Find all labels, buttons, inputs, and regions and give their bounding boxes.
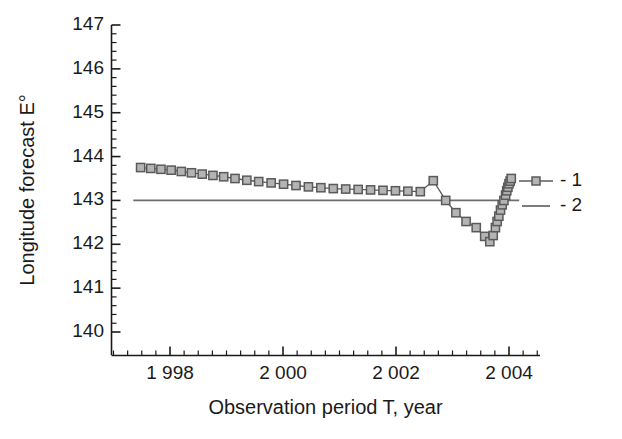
series-1-data-point bbox=[167, 166, 175, 174]
y-tick-label: 146 bbox=[58, 57, 104, 79]
y-tick-label: 142 bbox=[58, 232, 104, 254]
legend-label-1: - 1 bbox=[560, 169, 582, 191]
chart-figure: Longitude forecast E° 140141142143144145… bbox=[0, 0, 622, 439]
x-tick-label: 2 004 bbox=[459, 362, 559, 384]
series-1-data-point bbox=[220, 173, 228, 181]
series-1-data-point bbox=[366, 186, 374, 194]
series-1-data-point bbox=[231, 174, 239, 182]
y-tick-label: 140 bbox=[58, 320, 104, 342]
series-1-data-point bbox=[452, 209, 460, 217]
series-1-data-point bbox=[279, 180, 287, 188]
y-tick-label: 141 bbox=[58, 276, 104, 298]
series-1-data-point bbox=[507, 174, 515, 182]
series-1-data-point bbox=[292, 181, 300, 189]
x-tick-label: 1 998 bbox=[120, 362, 220, 384]
series-1-data-point bbox=[429, 177, 437, 185]
axis-lines bbox=[112, 25, 541, 356]
series-1-data-point bbox=[304, 183, 312, 191]
series-1-line bbox=[141, 168, 512, 242]
series-1-data-point bbox=[472, 224, 480, 232]
x-tick-label: 2 000 bbox=[233, 362, 333, 384]
series-1-data-point bbox=[404, 187, 412, 195]
series-1-data-point bbox=[489, 231, 497, 239]
series-1-data-point bbox=[137, 163, 145, 171]
series-1-data-point bbox=[198, 170, 206, 178]
series-1-data-point bbox=[255, 177, 263, 185]
legend-symbol-2 bbox=[516, 197, 556, 215]
y-axis-title: Longitude forecast E° bbox=[16, 94, 38, 285]
series-1-data-point bbox=[462, 217, 470, 225]
y-axis-ticks bbox=[112, 25, 121, 332]
series-1-data-point bbox=[442, 196, 450, 204]
series-1-markers bbox=[137, 163, 516, 245]
series-1-data-point bbox=[329, 184, 337, 192]
series-1-data-point bbox=[209, 171, 217, 179]
series-1-data-point bbox=[317, 184, 325, 192]
series-1-data-point bbox=[177, 167, 185, 175]
x-tick-label: 2 002 bbox=[346, 362, 446, 384]
series-1-data-point bbox=[416, 188, 424, 196]
series-1-polyline bbox=[141, 168, 512, 242]
legend-symbol-1 bbox=[516, 172, 556, 190]
series-1-data-point bbox=[243, 176, 251, 184]
series-1-data-point bbox=[157, 165, 165, 173]
series-1-data-point bbox=[267, 179, 275, 187]
y-tick-label: 147 bbox=[58, 13, 104, 35]
y-tick-label: 143 bbox=[58, 188, 104, 210]
x-axis-ticks bbox=[114, 347, 538, 356]
series-1-data-point bbox=[379, 186, 387, 194]
series-1-data-point bbox=[391, 187, 399, 195]
series-1-data-point bbox=[147, 164, 155, 172]
series-1-data-point bbox=[354, 185, 362, 193]
series-1-data-point bbox=[342, 185, 350, 193]
y-tick-label: 144 bbox=[58, 145, 104, 167]
legend-square-marker bbox=[532, 177, 540, 185]
y-tick-label: 145 bbox=[58, 101, 104, 123]
x-axis-title: Observation period T, year bbox=[111, 396, 540, 419]
legend-label-2: - 2 bbox=[560, 194, 582, 216]
series-1-data-point bbox=[187, 169, 195, 177]
